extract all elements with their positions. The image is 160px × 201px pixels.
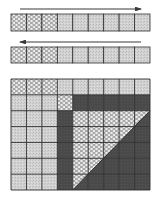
- grid-cell-dark: [104, 95, 119, 111]
- grid-cell-dark: [57, 111, 72, 127]
- grid-cell-dark: [119, 142, 134, 158]
- grid-cell-dark: [119, 95, 134, 111]
- grid-cell-light: [42, 142, 57, 158]
- bar-cell-light: [135, 47, 150, 63]
- grid-cell-light: [11, 158, 26, 174]
- grid-cell-dark: [88, 95, 103, 111]
- bar-cell-bubble: [11, 14, 26, 31]
- bar-cell-bubble: [11, 47, 26, 63]
- grid-cell-light: [73, 79, 88, 95]
- grid-cell-dark: [104, 158, 119, 174]
- grid-cell-bubble: [42, 79, 57, 95]
- bar-cell-light: [119, 47, 134, 63]
- grid-cell-light: [11, 174, 26, 190]
- bar-cell-light: [73, 14, 88, 31]
- grid-cell-dark: [135, 95, 150, 111]
- matrix-grid: [11, 79, 150, 190]
- grid-cell-light: [42, 95, 57, 111]
- bar-cell-light: [104, 14, 119, 31]
- grid-cell-light: [135, 79, 150, 95]
- bar-cell-light: [119, 14, 134, 31]
- grid-cell-light: [11, 127, 26, 143]
- grid-cell-dark: [119, 174, 134, 190]
- grid-cell-light: [42, 158, 57, 174]
- bars-layer: [11, 9, 150, 63]
- tiling-diagram: [0, 0, 160, 201]
- grid-cell-light: [11, 95, 26, 111]
- grid-cell-bubble: [26, 79, 41, 95]
- grid-cell-light: [57, 79, 72, 95]
- grid-cell-bubble: [57, 95, 72, 111]
- grid-cell-light: [42, 127, 57, 143]
- grid-cell-light: [26, 158, 41, 174]
- grid-cell-light: [11, 142, 26, 158]
- grid-cell-dark: [119, 158, 134, 174]
- grid-cell-light: [26, 142, 41, 158]
- grid-cell-dark: [104, 174, 119, 190]
- grid-cell-light: [26, 95, 41, 111]
- bar-cell-bubble: [26, 47, 41, 63]
- bar-cell-bubble: [42, 14, 57, 31]
- grid-cell-dark: [135, 174, 150, 190]
- top-bar: [11, 9, 150, 31]
- grid-cell-light: [119, 79, 134, 95]
- middle-bar: [11, 42, 150, 63]
- grid-cell-light: [26, 111, 41, 127]
- grid-cell-light: [104, 79, 119, 95]
- bar-cell-bubble: [42, 47, 57, 63]
- bar-cell-bubble: [26, 14, 41, 31]
- grid-cell-dark: [135, 127, 150, 143]
- grid-cell-dark: [57, 174, 72, 190]
- grid-cell-dark: [57, 127, 72, 143]
- grid-cell-light: [26, 174, 41, 190]
- bar-cell-light: [73, 47, 88, 63]
- grid-cell-light: [88, 79, 103, 95]
- grid-cell-dark: [73, 95, 88, 111]
- bar-cell-light: [135, 14, 150, 31]
- grid-cell-light: [26, 127, 41, 143]
- grid-cell-light: [42, 111, 57, 127]
- grid-cell-bubble: [11, 79, 26, 95]
- bar-cell-light: [88, 14, 103, 31]
- bar-cell-light: [104, 47, 119, 63]
- grid-cell-dark: [88, 174, 103, 190]
- grid-cell-light: [42, 174, 57, 190]
- grid-cell-dark: [57, 158, 72, 174]
- bar-cell-light: [88, 47, 103, 63]
- grid-cell-light: [11, 111, 26, 127]
- grid-cell-dark: [57, 142, 72, 158]
- bar-cell-light: [57, 14, 72, 31]
- bar-cell-light: [57, 47, 72, 63]
- grid-cell-dark: [135, 142, 150, 158]
- grid-cell-dark: [135, 158, 150, 174]
